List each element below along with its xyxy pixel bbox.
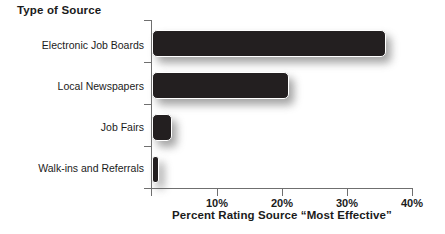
x-axis-tick xyxy=(347,189,348,196)
x-axis-tick xyxy=(282,189,283,196)
x-axis-tick-label-30: 30% xyxy=(336,197,358,209)
category-label-electronic-job-boards: Electronic Job Boards xyxy=(4,39,144,51)
x-axis-tick xyxy=(151,189,152,196)
bar-local-newspapers[interactable] xyxy=(152,72,289,99)
y-axis-tick xyxy=(144,188,151,189)
bar-electronic-job-boards[interactable] xyxy=(152,30,386,57)
x-axis-tick-label-10: 10% xyxy=(206,197,228,209)
x-axis-tick xyxy=(217,189,218,196)
category-label-local-newspapers: Local Newspapers xyxy=(4,80,144,92)
x-axis-title: Percent Rating Source “Most Effective” xyxy=(152,209,412,221)
bar-walk-ins-and-referrals[interactable] xyxy=(152,156,159,183)
y-axis-tick xyxy=(144,146,151,147)
bar-job-fairs[interactable] xyxy=(152,114,172,141)
x-axis-tick-label-40: 40% xyxy=(401,197,423,209)
category-label-job-fairs: Job Fairs xyxy=(4,121,144,133)
y-axis-tick xyxy=(144,20,151,21)
y-axis-tick xyxy=(144,104,151,105)
x-axis-tick-label-20: 20% xyxy=(271,197,293,209)
bar-chart: Type of Source Electronic Job Boards Loc… xyxy=(0,0,445,234)
x-axis-tick xyxy=(412,189,413,196)
category-label-walk-ins-and-referrals: Walk-ins and Referrals xyxy=(4,162,144,174)
y-axis-tick xyxy=(144,62,151,63)
y-axis-labels: Electronic Job Boards Local Newspapers J… xyxy=(4,0,144,234)
